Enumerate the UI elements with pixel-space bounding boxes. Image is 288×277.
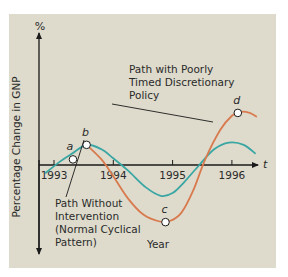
x-axis-symbol: t <box>263 158 268 171</box>
point-b-label: b <box>82 126 89 139</box>
chart: % t Percentage Change in GNP Year 199319… <box>0 0 288 277</box>
y-unit-label: % <box>35 20 45 33</box>
annotation-text-line: Path with Poorly <box>129 63 213 75</box>
annotation-text-line: (Normal Cyclical <box>55 223 141 235</box>
point-c-marker <box>162 218 170 226</box>
x-tick-label: 1995 <box>159 169 186 181</box>
x-axis-label: Year <box>146 238 170 250</box>
annotation-text-line: Path Without <box>55 197 122 209</box>
point-b-marker <box>83 141 91 149</box>
point-d-marker <box>234 109 242 117</box>
point-a-label: a <box>67 140 74 153</box>
x-tick-label: 1996 <box>219 169 246 181</box>
annotation-text-line: Timed Discretionary <box>128 76 235 88</box>
annotation-leader-line <box>112 104 213 122</box>
point-d-label: d <box>233 94 241 107</box>
x-tick-label: 1993 <box>41 169 68 181</box>
annotation-text-line: Pattern) <box>55 236 97 248</box>
annotation-text-line: Policy <box>129 89 159 101</box>
y-axis-label: Percentage Change in GNP <box>10 76 22 217</box>
annotation-text-line: Intervention <box>55 210 119 222</box>
point-a-marker <box>69 156 77 164</box>
point-c-label: c <box>161 203 167 216</box>
